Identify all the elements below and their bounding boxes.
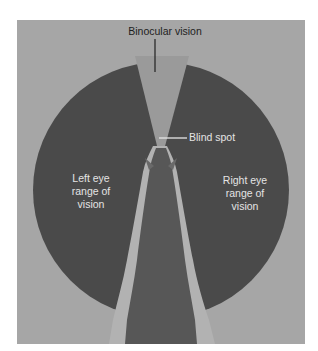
right-eye-label-line-2: range of <box>213 187 277 200</box>
left-eye-label-line-2: range of <box>61 185 121 198</box>
left-eye-label-line-3: vision <box>61 198 121 211</box>
blind-spot-label: Blind spot <box>189 131 235 144</box>
right-eye-label-line-1: Right eye <box>213 174 277 187</box>
right-eye-label-line-3: vision <box>213 200 277 213</box>
left-eye-label-line-1: Left eye <box>61 172 121 185</box>
left-eye-range-label: Left eye range of vision <box>61 172 121 211</box>
diagram-panel: Binocular vision Blind spot Left eye ran… <box>17 20 305 344</box>
binocular-vision-label: Binocular vision <box>117 25 213 38</box>
right-eye-range-label: Right eye range of vision <box>213 174 277 213</box>
